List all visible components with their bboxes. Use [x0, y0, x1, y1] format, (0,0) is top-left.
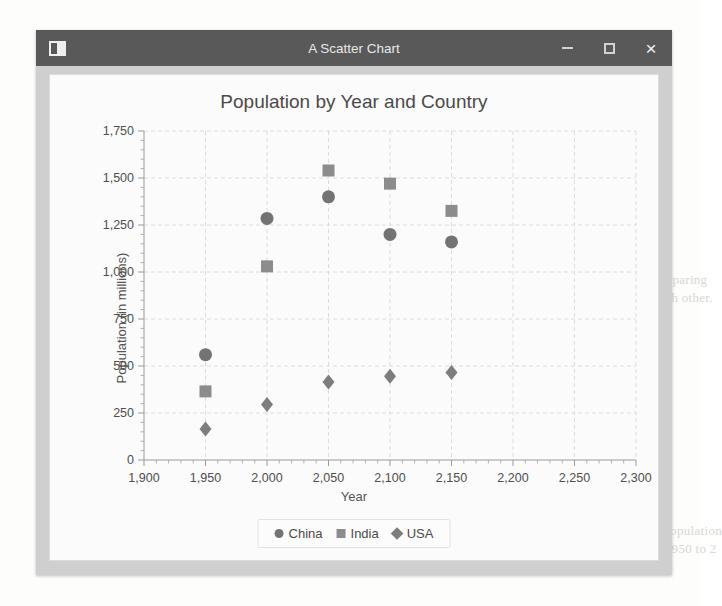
- data-point-india[interactable]: [323, 164, 335, 176]
- maximize-icon: [604, 43, 615, 54]
- plot-svg: 02505007501,0001,2501,5001,7501,9001,950…: [144, 131, 636, 460]
- data-point-india[interactable]: [200, 385, 212, 397]
- x-tick-label: 1,900: [128, 471, 159, 485]
- plot-area: 02505007501,0001,2501,5001,7501,9001,950…: [144, 131, 636, 460]
- y-tick-label: 500: [113, 359, 134, 373]
- data-point-china[interactable]: [445, 235, 458, 248]
- y-tick-label: 1,250: [103, 218, 134, 232]
- data-point-usa[interactable]: [384, 369, 396, 384]
- data-point-usa[interactable]: [446, 365, 458, 380]
- legend-item-usa[interactable]: USA: [393, 526, 434, 541]
- legend-label: USA: [407, 526, 434, 541]
- close-button[interactable]: ×: [630, 30, 672, 66]
- x-tick-label: 2,000: [251, 471, 282, 485]
- x-tick-label: 2,300: [620, 471, 651, 485]
- minimize-icon: [562, 47, 573, 49]
- x-tick-label: 2,100: [374, 471, 405, 485]
- data-point-india[interactable]: [261, 260, 273, 272]
- chart-legend: ChinaIndiaUSA: [258, 519, 451, 548]
- chart-title: Population by Year and Country: [50, 91, 658, 113]
- x-tick-label: 2,150: [436, 471, 467, 485]
- y-tick-label: 750: [113, 312, 134, 326]
- window-body: Population by Year and Country Populatio…: [49, 74, 659, 561]
- data-point-china[interactable]: [199, 348, 212, 361]
- chart-window: A Scatter Chart × Population by Year and…: [36, 30, 672, 575]
- x-axis-label: Year: [50, 489, 658, 504]
- y-tick-label: 1,500: [103, 171, 134, 185]
- data-point-china[interactable]: [384, 228, 397, 241]
- data-point-usa[interactable]: [323, 374, 335, 389]
- legend-label: China: [289, 526, 323, 541]
- x-tick-label: 2,200: [497, 471, 528, 485]
- data-point-india[interactable]: [446, 205, 458, 217]
- legend-marker-circle-icon: [275, 529, 284, 538]
- data-point-usa[interactable]: [200, 421, 212, 436]
- legend-marker-diamond-icon: [391, 527, 404, 540]
- data-point-india[interactable]: [384, 178, 396, 190]
- y-tick-label: 250: [113, 406, 134, 420]
- close-icon: ×: [645, 39, 656, 58]
- y-tick-label: 1,000: [103, 265, 134, 279]
- legend-label: India: [351, 526, 379, 541]
- window-titlebar[interactable]: A Scatter Chart ×: [36, 30, 672, 66]
- legend-marker-square-icon: [337, 529, 346, 538]
- legend-item-india[interactable]: India: [337, 526, 379, 541]
- y-tick-label: 1,750: [103, 124, 134, 138]
- window-controls: ×: [546, 30, 672, 66]
- minimize-button[interactable]: [546, 30, 588, 66]
- data-point-usa[interactable]: [261, 397, 273, 412]
- x-tick-label: 2,050: [313, 471, 344, 485]
- maximize-button[interactable]: [588, 30, 630, 66]
- x-tick-label: 1,950: [190, 471, 221, 485]
- data-point-china[interactable]: [261, 212, 274, 225]
- scatter-chart: Population by Year and Country Populatio…: [50, 75, 658, 560]
- x-tick-label: 2,250: [559, 471, 590, 485]
- data-point-china[interactable]: [322, 190, 335, 203]
- y-tick-label: 0: [127, 453, 134, 467]
- legend-item-china[interactable]: China: [275, 526, 323, 541]
